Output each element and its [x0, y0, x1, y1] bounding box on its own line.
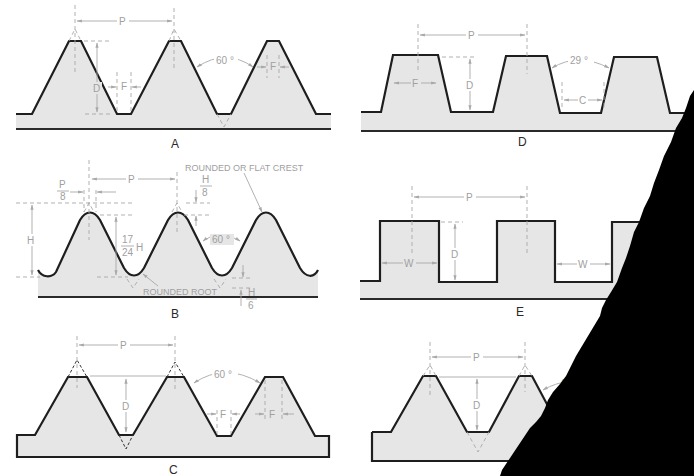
panel-b-depth-num: 17 — [122, 234, 134, 245]
panel-b: ROUNDED OR FLAT CREST P P 8 H 17 24 H — [16, 160, 318, 321]
panel-d-pitch-label: P — [468, 30, 475, 41]
panel-b-crest-width-num: P — [59, 179, 66, 190]
panel-e-width2-label: W — [578, 259, 588, 270]
panel-a-caption: A — [171, 137, 179, 151]
panel-b-angle-label: 60 ° — [212, 234, 230, 245]
panel-b-crest-trunc-den: 8 — [202, 187, 208, 198]
panel-b-crest-trunc-num: H — [202, 174, 209, 185]
panel-d: P F D 29 ° C D — [361, 24, 687, 149]
panel-a: P D F F 60 ° A — [16, 5, 331, 151]
panel-b-pitch-label: P — [128, 174, 135, 185]
panel-b-root-trunc-num: H — [248, 287, 255, 298]
panel-c-pitch-label: P — [120, 340, 127, 351]
panel-a-flat2-label: F — [270, 61, 276, 72]
panel-c-angle-label: 60 ° — [214, 369, 232, 380]
panel-b-caption: B — [171, 307, 179, 321]
panel-c-caption: C — [169, 463, 178, 476]
panel-f-pitch-label: P — [473, 352, 480, 363]
panel-d-angle-label: 29 ° — [570, 55, 588, 66]
panel-b-root-trunc-den: 6 — [248, 300, 254, 311]
panel-f-depth-label: D — [473, 400, 480, 411]
panel-e-depth-label: D — [451, 249, 458, 260]
panel-c-flat-label: F — [220, 409, 226, 420]
panel-c-depth-label: D — [122, 401, 129, 412]
panel-d-clearance-label: C — [579, 95, 586, 106]
panel-a-flat-label: F — [121, 81, 127, 92]
panel-e-caption: E — [516, 305, 524, 319]
panel-d-depth-label: D — [466, 80, 473, 91]
panel-e-width-label: W — [404, 258, 414, 269]
panel-d-flat-label: F — [412, 78, 418, 89]
panel-b-root-note: ROUNDED ROOT — [143, 287, 218, 297]
panel-b-depth-den: 24 — [122, 247, 134, 258]
panel-d-caption: D — [518, 135, 527, 149]
panel-b-crest-note: ROUNDED OR FLAT CREST — [185, 163, 304, 173]
panel-a-pitch-label: P — [119, 16, 126, 27]
panel-c-flat2-label: F — [269, 409, 275, 420]
panel-e-pitch-label: P — [466, 192, 473, 203]
panel-b-height-label: H — [27, 235, 34, 246]
panel-b-depth-suffix: H — [136, 242, 143, 253]
thread-forms-diagram: P D F F 60 ° A ROUNDED OR FLAT CREST — [0, 0, 694, 476]
panel-a-depth-label: D — [93, 83, 100, 94]
panel-a-angle-label: 60 ° — [216, 55, 234, 66]
panel-b-crest-width-den: 8 — [60, 191, 66, 202]
panel-c: P D F F 60 ° C — [17, 336, 329, 476]
